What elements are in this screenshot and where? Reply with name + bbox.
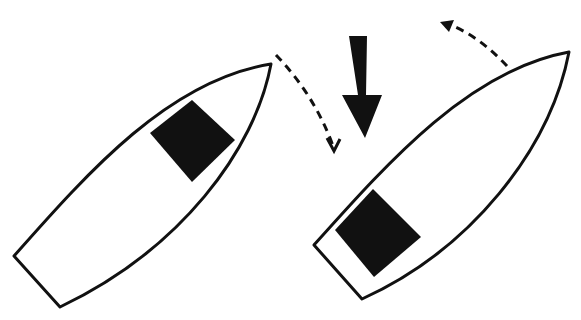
boat-left-hull	[14, 64, 271, 307]
boat-left	[14, 64, 271, 307]
rotation-arrow-left-icon	[276, 55, 340, 151]
diagram-canvas: Two boats viewed from above; a large sol…	[0, 0, 581, 320]
force-arrow-icon	[342, 36, 382, 138]
boat-right-hull	[314, 52, 569, 299]
rotation-arrow-right-icon	[440, 20, 507, 66]
boat-right	[314, 52, 569, 299]
